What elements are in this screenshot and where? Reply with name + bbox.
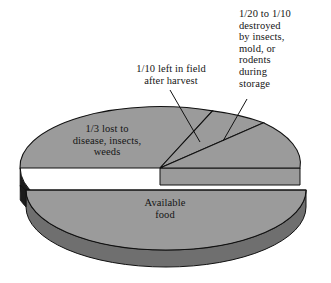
label-left-in-field: 1/10 left in field after harvest — [118, 63, 224, 86]
label-available-food: Available food — [113, 197, 217, 220]
pie-chart-figure: 1/20 to 1/10 destroyed by insects, mold,… — [0, 0, 331, 283]
label-lost-to-disease: 1/3 lost to disease, insects, weeds — [46, 123, 168, 158]
pie-upper-right-face — [160, 168, 300, 185]
label-storage-losses: 1/20 to 1/10 destroyed by insects, mold,… — [239, 8, 331, 89]
